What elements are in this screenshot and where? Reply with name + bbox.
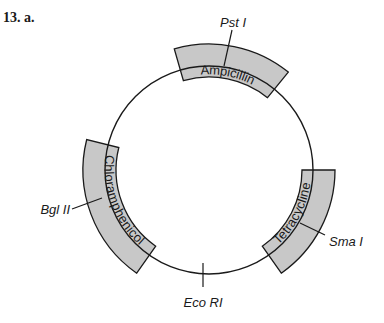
- eco-ri-label: Eco RI: [183, 295, 222, 310]
- sma-i-label: Sma I: [329, 234, 363, 249]
- pst-i-label: Pst I: [220, 15, 246, 30]
- plasmid-map: Ampicillin Chloramphenicol Tetracycline …: [0, 0, 384, 323]
- bgl-ii-label: Bgl II: [40, 202, 70, 217]
